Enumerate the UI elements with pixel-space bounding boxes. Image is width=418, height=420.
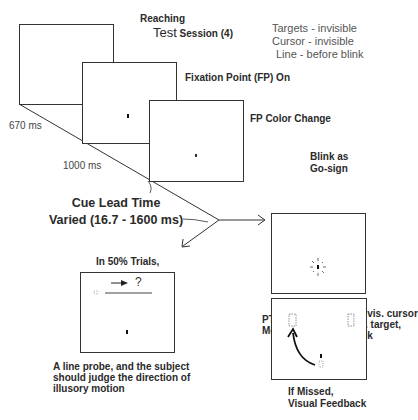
probe-caption-line1: A line probe, and the subject [53, 361, 190, 372]
probe-arrowhead [121, 280, 128, 286]
timing-670: 670 ms [9, 120, 42, 131]
probe-question-mark: ? [135, 275, 142, 289]
probe-caption-line2: should judge the direction of [53, 372, 190, 383]
cue-lead-label: Cue Lead Time Varied (16.7 - 1600 ms) [41, 195, 191, 229]
condition-cursor: Cursor - invisible [272, 35, 363, 48]
cue-lead-title: Cue Lead Time [41, 195, 191, 212]
feedback-fixation-point [320, 354, 322, 358]
reach-path-arrow [293, 333, 315, 365]
fixation-point-changed [195, 154, 197, 157]
brace-tick-1 [148, 181, 151, 193]
fixation-point [127, 114, 129, 118]
probe-fixation-point [126, 330, 128, 334]
probe-target-marker [94, 291, 98, 294]
feedback-label: If Missed, Visual Feedback [288, 386, 366, 410]
conditions-list: Targets - invisible Cursor - invisible L… [272, 22, 363, 61]
blink-icon [308, 257, 328, 277]
condition-line: Line - before blink [272, 48, 363, 61]
label-fixation-on: Fixation Point (FP) On [185, 72, 290, 83]
frame-go-sign [271, 213, 366, 294]
target-right [348, 314, 354, 326]
probe-caption: A line probe, and the subject should jud… [53, 361, 190, 394]
cursor-start-marker [319, 361, 323, 367]
cue-lead-range: Varied (16.7 - 1600 ms) [41, 212, 191, 229]
condition-targets: Targets - invisible [272, 22, 363, 35]
title-reaching: Reaching [140, 13, 185, 24]
probe-graphics [81, 273, 176, 354]
label-fp-color-change: FP Color Change [250, 113, 331, 124]
go-sign-line2: Go-sign [310, 163, 348, 175]
probe-heading: In 50% Trials, [96, 256, 159, 267]
frame-feedback [271, 298, 367, 380]
feedback-graphics [272, 299, 368, 381]
target-left [289, 314, 296, 326]
title-session-number: Session (4) [177, 28, 233, 39]
go-sign-label: Blink as Go-sign [310, 151, 348, 175]
title-test: Test [153, 25, 177, 40]
timing-1000: 1000 ms [63, 160, 101, 171]
feedback-line1: If Missed, [288, 386, 366, 398]
frame-fp-color-change [149, 100, 244, 182]
frame-line-probe: ? [80, 272, 175, 353]
probe-caption-line3: illusory motion [53, 383, 190, 394]
go-sign-line1: Blink as [310, 151, 348, 163]
feedback-line2: Visual Feedback [288, 398, 366, 410]
title-session: Test Session (4) [153, 25, 233, 40]
